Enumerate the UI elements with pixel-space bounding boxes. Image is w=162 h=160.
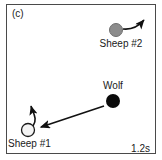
- sheep2-label: Sheep #2: [90, 38, 152, 49]
- sheep1-label: Sheep #1: [8, 138, 70, 149]
- sheep2-heading-arrow: [123, 20, 144, 29]
- wolf-label: Wolf: [88, 80, 138, 91]
- wolf-chase-arrow: [41, 106, 104, 127]
- sheep1-heading-arrow: [31, 106, 35, 126]
- wolf-marker: [106, 94, 120, 108]
- sheep1-marker: [22, 124, 35, 137]
- figure-panel: (c) Sheep #2 Wolf Sheep #1 1.2s: [0, 0, 162, 160]
- timestamp-label: 1.2s: [131, 143, 150, 154]
- sheep2-marker: [110, 24, 123, 37]
- panel-label: (c): [12, 8, 24, 20]
